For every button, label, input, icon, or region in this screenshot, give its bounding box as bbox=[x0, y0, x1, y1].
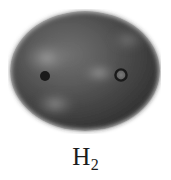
molecule-cloud-svg bbox=[8, 9, 161, 134]
cloud-grain bbox=[10, 11, 160, 131]
figure-root: H2 bbox=[0, 0, 171, 180]
molecule-label-element: H bbox=[72, 143, 91, 170]
electron-density-cloud bbox=[8, 9, 161, 134]
molecule-label: H2 bbox=[0, 142, 171, 180]
molecule-label-subscript: 2 bbox=[91, 156, 99, 173]
